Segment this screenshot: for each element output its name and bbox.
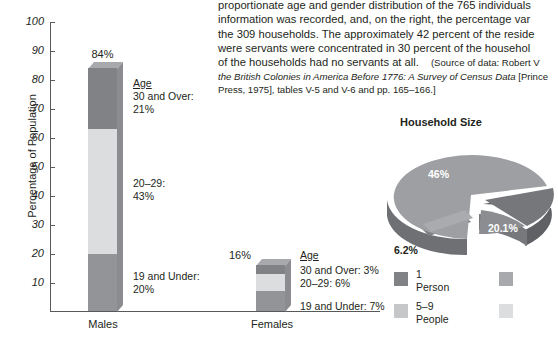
pie-top-faces bbox=[394, 155, 554, 239]
callout-males-under19-value: 20% bbox=[133, 283, 200, 296]
callout-females-age: Age 30 and Over: 3% 20–29: 6% 19 and Und… bbox=[300, 249, 385, 313]
y-tick-mark-40 bbox=[50, 196, 55, 197]
bar-males-segment-19-and-under bbox=[88, 254, 117, 311]
callout-males-age: Age 30 and Over: 21% bbox=[133, 77, 194, 116]
bar-females-value-label: 16% bbox=[222, 249, 251, 261]
caption-line-5-text: of the households had no servants at all… bbox=[218, 56, 419, 68]
callout-males-over30-value: 21% bbox=[133, 103, 194, 116]
y-tick-label-40: 40 bbox=[14, 190, 44, 201]
y-tick-label-90: 90 bbox=[14, 45, 44, 56]
callout-males-age-heading: Age bbox=[133, 77, 152, 89]
bar-females-segment-30-and-over bbox=[256, 265, 285, 274]
y-tick-mark-100 bbox=[50, 22, 55, 23]
bar-males-segment-20-29 bbox=[88, 129, 117, 254]
bar-females-segment-20-29 bbox=[256, 274, 285, 291]
pie-label-20-1: 20.1% bbox=[488, 222, 518, 234]
caption-line-1: proportionate age and gender distributio… bbox=[218, 0, 558, 12]
bar-females-segment-19-and-under bbox=[256, 291, 285, 311]
caption-source-inline: (Source of data: Robert V bbox=[419, 57, 540, 68]
bar-females-front bbox=[256, 265, 285, 311]
caption-source-title: the British Colonies in America Before 1… bbox=[218, 71, 516, 82]
y-tick-label-50: 50 bbox=[14, 161, 44, 172]
pie-chart-figure: Household Size 46% 20.1% 6.2% bbox=[380, 110, 558, 349]
bar-females-side-face bbox=[285, 259, 292, 312]
y-tick-mark-10 bbox=[50, 283, 55, 284]
callout-females-over30: 30 and Over: 3% bbox=[300, 264, 385, 277]
caption-line-5: of the households had no servants at all… bbox=[218, 55, 558, 70]
y-tick-label-80: 80 bbox=[14, 74, 44, 85]
legend-label-5-9-people: 5–9 People bbox=[416, 300, 449, 325]
y-tick-label-30: 30 bbox=[14, 219, 44, 230]
y-tick-mark-50 bbox=[50, 167, 55, 168]
figure-caption: proportionate age and gender distributio… bbox=[218, 0, 558, 96]
legend-swatch-5-9-people bbox=[394, 304, 408, 318]
callout-males-twenties: 20–29: 43% bbox=[133, 177, 165, 203]
y-tick-mark-30 bbox=[50, 225, 55, 226]
callout-females-twenties: 20–29: 6% bbox=[300, 277, 385, 290]
bar-males-value-label: 84% bbox=[88, 48, 117, 60]
legend-label-1-person: 1 Person bbox=[416, 268, 449, 293]
caption-line-4: were servants were concentrated in 30 pe… bbox=[218, 41, 558, 55]
y-tick-label-60: 60 bbox=[14, 132, 44, 143]
bar-males-category-label: Males bbox=[80, 318, 126, 330]
pie-chart-title: Household Size bbox=[400, 116, 482, 128]
bar-males-segment-30-and-over bbox=[88, 68, 117, 129]
y-tick-label-10: 10 bbox=[14, 277, 44, 288]
y-tick-label-100: 100 bbox=[14, 16, 44, 27]
callout-males-twenties-label: 20–29: bbox=[133, 177, 165, 190]
caption-source-last-line: Press, 1975], tables V-5 and V-6 and pp.… bbox=[218, 83, 558, 96]
bar-males-side-face bbox=[117, 62, 124, 312]
y-tick-label-70: 70 bbox=[14, 103, 44, 114]
pie-label-6-2: 6.2% bbox=[394, 244, 418, 256]
callout-females-age-heading: Age bbox=[300, 249, 319, 261]
y-tick-label-20: 20 bbox=[14, 248, 44, 259]
y-tick-mark-20 bbox=[50, 254, 55, 255]
legend-swatch-col2-row1 bbox=[499, 272, 513, 286]
callout-males-under19: 19 and Under: 20% bbox=[133, 270, 200, 296]
legend-swatch-col2-row2 bbox=[499, 304, 513, 318]
y-tick-mark-60 bbox=[50, 138, 55, 139]
caption-line-2: information was recorded, and, on the ri… bbox=[218, 12, 558, 26]
callout-females-under19: 19 and Under: 7% bbox=[300, 300, 385, 313]
callout-males-under19-label: 19 and Under: bbox=[133, 270, 200, 283]
caption-source-italic-line: the British Colonies in America Before 1… bbox=[218, 70, 558, 83]
callout-males-over30-label: 30 and Over: bbox=[133, 90, 194, 103]
y-tick-mark-90 bbox=[50, 51, 55, 52]
caption-line-3: the 309 households. The approximately 42… bbox=[218, 27, 558, 41]
y-tick-mark-80 bbox=[50, 80, 55, 81]
caption-source-bracket: [Prince bbox=[516, 71, 549, 82]
legend-swatch-1-person bbox=[394, 272, 408, 286]
pie-label-46: 46% bbox=[428, 168, 449, 180]
callout-males-twenties-value: 43% bbox=[133, 190, 165, 203]
bar-males-front bbox=[88, 68, 117, 311]
bar-females-category-label: Females bbox=[247, 318, 297, 330]
y-tick-mark-70 bbox=[50, 109, 55, 110]
